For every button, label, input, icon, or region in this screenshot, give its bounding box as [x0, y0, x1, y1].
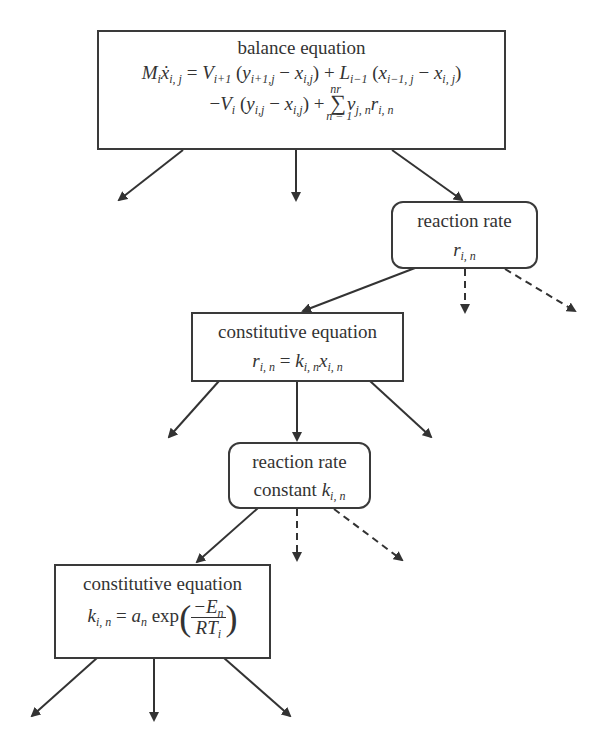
constitutive-equation-2-formula: ki, n = an exp(−EnRTi): [56, 597, 269, 638]
rate-constant-symbol: ki, n: [322, 479, 346, 500]
constitutive-equation-1-title: constitutive equation: [193, 321, 402, 343]
arrow-balance-left: [119, 150, 183, 200]
arrow-const1-right: [370, 381, 431, 437]
arrow-rate-to-constitutive: [303, 268, 415, 311]
constant-label: constant: [254, 479, 317, 500]
reaction-rate-title: reaction rate: [393, 210, 536, 232]
reaction-rate-constant-box: reaction rate constant ki, n: [228, 442, 371, 509]
constitutive-equation-1-box: constitutive equation ri, n = ki, nxi, n: [191, 312, 404, 382]
arrow-rateconst-dashed-right: [334, 509, 402, 560]
arrow-rate-dashed-right: [505, 269, 575, 311]
reaction-rate-box: reaction rate ri, n: [391, 201, 538, 269]
reaction-rate-symbol: ri, n: [393, 238, 536, 262]
constitutive-equation-1-formula: ri, n = ki, nxi, n: [193, 349, 402, 373]
constitutive-equation-2-title: constitutive equation: [56, 573, 269, 595]
exp-function: exp: [152, 605, 179, 626]
balance-equation-box: balance equation Miẋi, j = Vi+1 (yi+1,j …: [97, 30, 506, 150]
reaction-rate-constant-title: reaction rate: [230, 451, 369, 473]
sum-symbol: nr∑n = 1: [330, 91, 346, 115]
reaction-rate-constant-line2: constant ki, n: [230, 478, 369, 502]
constitutive-equation-2-box: constitutive equation ki, n = an exp(−En…: [54, 564, 271, 659]
balance-equation-line2: −Vi (yi,j − xi,j) + nr∑n = 1νj, nri, n: [99, 91, 504, 116]
balance-equation-title: balance equation: [99, 37, 504, 59]
arrow-rateconst-to-const2: [197, 508, 258, 562]
arrow-const2-right: [224, 658, 290, 716]
arrow-const1-left: [169, 381, 219, 437]
balance-equation-line1: Miẋi, j = Vi+1 (yi+1,j − xi,j) + Li−1 (x…: [99, 61, 504, 85]
fraction: −EnRTi: [191, 597, 225, 638]
arrow-const2-left: [32, 658, 97, 716]
arrow-balance-to-rate: [392, 150, 462, 200]
